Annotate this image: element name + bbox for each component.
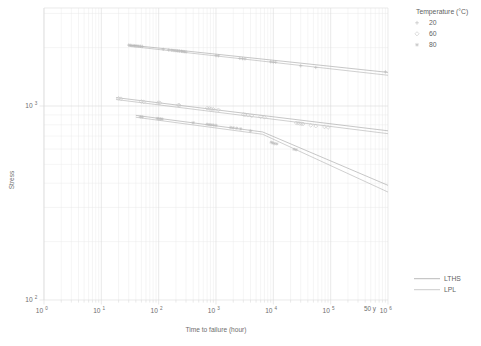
svg-text:0: 0 xyxy=(45,306,48,311)
legend-title: Temperature (°C) xyxy=(416,8,468,16)
data-point-group xyxy=(117,43,387,151)
x-tick-label: 106 xyxy=(380,306,392,314)
data-point xyxy=(314,66,317,69)
fit-line-lths-20 xyxy=(129,45,388,72)
svg-text:10: 10 xyxy=(265,307,273,314)
svg-text:10: 10 xyxy=(25,296,33,303)
svg-text:2: 2 xyxy=(35,295,38,300)
data-point xyxy=(299,64,302,67)
data-point xyxy=(232,126,235,129)
svg-text:4: 4 xyxy=(275,306,278,311)
series-80 xyxy=(139,115,298,151)
svg-text:3: 3 xyxy=(35,101,38,106)
legend-item-20[interactable]: 20 xyxy=(415,19,437,26)
line-legend-label: LPL xyxy=(444,286,456,293)
data-point xyxy=(160,117,163,120)
x-tick-label: 100 xyxy=(36,306,48,314)
data-point xyxy=(239,127,242,130)
data-point xyxy=(294,148,297,151)
y-axis-ticks xyxy=(40,106,45,300)
x-tick-label: 102 xyxy=(150,306,162,314)
svg-text:5: 5 xyxy=(332,306,335,311)
legend-item-60[interactable]: 60 xyxy=(415,30,437,37)
legend-item-label: 20 xyxy=(429,19,437,26)
fifty-year-annotation: 50 y xyxy=(364,305,377,313)
svg-text:6: 6 xyxy=(389,306,392,311)
legend-item-label: 60 xyxy=(429,30,437,37)
x-axis-title: Time to failure (hour) xyxy=(186,326,247,334)
line-legend-item-lpl[interactable]: LPL xyxy=(414,286,456,293)
svg-text:10: 10 xyxy=(380,307,388,314)
fit-line-lpl-80 xyxy=(136,117,388,192)
data-point xyxy=(229,126,232,129)
data-point xyxy=(214,124,217,127)
legend-item-80[interactable]: 80 xyxy=(415,41,437,48)
data-point xyxy=(212,123,215,126)
line-style-legend: LTHSLPL xyxy=(414,275,461,293)
svg-text:10: 10 xyxy=(25,102,33,109)
legend-marker-diamond-icon xyxy=(415,32,419,36)
y-axis-tick-labels: 103102 xyxy=(25,101,37,303)
legend-item-label: 80 xyxy=(429,41,437,48)
fit-line-lpl-20 xyxy=(129,46,388,75)
data-point xyxy=(235,127,238,130)
data-point xyxy=(191,121,194,124)
fit-line-lpl-60 xyxy=(116,100,388,134)
x-tick-label: 103 xyxy=(208,306,220,314)
line-legend-label: LTHS xyxy=(444,275,461,282)
data-point xyxy=(162,48,165,51)
legend-marker-plus-icon xyxy=(415,21,419,25)
svg-text:10: 10 xyxy=(150,307,158,314)
y-axis-title: Stress xyxy=(8,170,15,189)
legend-marker-star-icon xyxy=(415,43,419,47)
x-tick-label: 101 xyxy=(93,306,105,314)
svg-text:10: 10 xyxy=(322,307,330,314)
temperature-legend: Temperature (°C) 206080 xyxy=(415,8,468,48)
svg-text:1: 1 xyxy=(103,306,106,311)
x-axis-tick-labels: 100101102103104105106 xyxy=(36,306,392,314)
svg-text:3: 3 xyxy=(217,306,220,311)
x-tick-label: 104 xyxy=(265,306,277,314)
chart-root: 100101102103104105106 103102 Time to fai… xyxy=(0,0,481,346)
svg-text:10: 10 xyxy=(93,307,101,314)
x-tick-label: 105 xyxy=(322,306,334,314)
legend-items: 206080 xyxy=(415,19,437,48)
data-point xyxy=(384,70,387,73)
x-axis-ticks xyxy=(44,300,388,305)
data-point xyxy=(274,60,277,63)
line-legend-item-lths[interactable]: LTHS xyxy=(414,275,461,282)
data-point xyxy=(275,142,278,145)
svg-text:2: 2 xyxy=(160,306,163,311)
regression-log-log-chart: 100101102103104105106 103102 Time to fai… xyxy=(0,0,481,346)
y-tick-label: 102 xyxy=(25,295,37,303)
svg-text:10: 10 xyxy=(208,307,216,314)
data-point xyxy=(141,115,144,118)
y-tick-label: 103 xyxy=(25,101,37,109)
data-point xyxy=(249,129,252,132)
svg-text:10: 10 xyxy=(36,307,44,314)
